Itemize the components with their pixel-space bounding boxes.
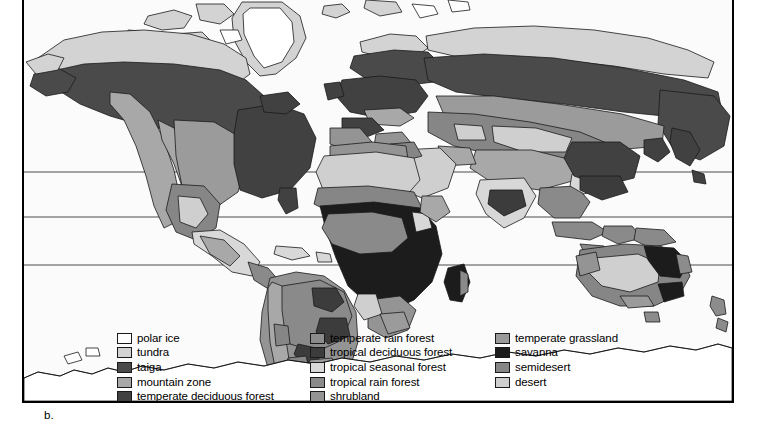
legend-swatch-semidesert: [495, 362, 510, 373]
legend-swatch-polar-ice: [117, 333, 132, 344]
legend-item-tropical-rain-forest[interactable]: tropical rain forest: [310, 375, 495, 390]
figure-label: b.: [44, 409, 54, 421]
legend-label-mountain-zone: mountain zone: [137, 377, 211, 388]
legend-swatch-taiga: [117, 362, 132, 373]
legend-item-polar-ice[interactable]: polar ice: [117, 331, 310, 346]
legend-swatch-desert: [495, 377, 510, 388]
legend-label-tundra: tundra: [137, 347, 169, 358]
legend-label-tropical-seasonal-forest: tropical seasonal forest: [330, 362, 446, 373]
legend-swatch-tropical-seasonal-forest: [310, 362, 325, 373]
legend-swatch-savanna: [495, 347, 510, 358]
legend-item-temperate-deciduous-forest[interactable]: temperate deciduous forest: [117, 389, 310, 403]
legend-swatch-temperate-rain-forest: [310, 333, 325, 344]
legend-column-3: temperate grassland savanna semidesert d…: [495, 331, 665, 389]
map-legend: polar ice tundra taiga mountain zone tem…: [117, 331, 677, 403]
legend-swatch-tundra: [117, 347, 132, 358]
legend-swatch-temperate-grassland: [495, 333, 510, 344]
legend-column-1: polar ice tundra taiga mountain zone tem…: [117, 331, 310, 403]
legend-label-temperate-rain-forest: temperate rain forest: [330, 333, 434, 344]
legend-item-mountain-zone[interactable]: mountain zone: [117, 375, 310, 390]
legend-label-temperate-deciduous-forest: temperate deciduous forest: [137, 391, 274, 402]
legend-item-semidesert[interactable]: semidesert: [495, 360, 665, 375]
legend-label-taiga: taiga: [137, 362, 161, 373]
legend-item-savanna[interactable]: savanna: [495, 346, 665, 361]
legend-label-savanna: savanna: [515, 347, 558, 358]
legend-label-tropical-rain-forest: tropical rain forest: [330, 377, 419, 388]
legend-item-tropical-seasonal-forest[interactable]: tropical seasonal forest: [310, 360, 495, 375]
legend-label-temperate-grassland: temperate grassland: [515, 333, 618, 344]
legend-label-shrubland: shrubland: [330, 391, 380, 402]
legend-swatch-mountain-zone: [117, 377, 132, 388]
legend-item-taiga[interactable]: taiga: [117, 360, 310, 375]
legend-column-2: temperate rain forest tropical deciduous…: [310, 331, 495, 403]
legend-swatch-temperate-deciduous-forest: [117, 391, 132, 402]
legend-swatch-shrubland: [310, 391, 325, 402]
legend-item-temperate-grassland[interactable]: temperate grassland: [495, 331, 665, 346]
legend-label-desert: desert: [515, 377, 546, 388]
legend-swatch-tropical-rain-forest: [310, 377, 325, 388]
legend-item-desert[interactable]: desert: [495, 375, 665, 390]
legend-label-tropical-deciduous-forest: tropical deciduous forest: [330, 347, 452, 358]
map-frame: .ln{stroke:#000;stroke-width:0.7;fill:no…: [22, 0, 734, 403]
legend-item-tropical-deciduous-forest[interactable]: tropical deciduous forest: [310, 346, 495, 361]
legend-swatch-tropical-deciduous-forest: [310, 347, 325, 358]
biome-map-figure: .ln{stroke:#000;stroke-width:0.7;fill:no…: [0, 0, 759, 432]
legend-item-tundra[interactable]: tundra: [117, 346, 310, 361]
legend-label-polar-ice: polar ice: [137, 333, 180, 344]
legend-item-temperate-rain-forest[interactable]: temperate rain forest: [310, 331, 495, 346]
legend-item-shrubland[interactable]: shrubland: [310, 389, 495, 403]
legend-label-semidesert: semidesert: [515, 362, 570, 373]
